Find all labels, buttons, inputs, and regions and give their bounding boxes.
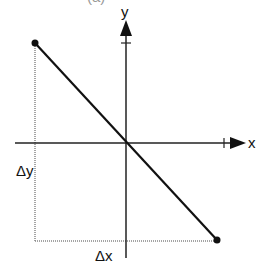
start-point bbox=[32, 40, 39, 47]
x-axis-label: x bbox=[248, 135, 256, 150]
delta-x-label: Δx bbox=[95, 248, 113, 263]
delta-y-label: Δy bbox=[16, 163, 34, 178]
end-point bbox=[214, 237, 221, 244]
diagram-canvas bbox=[0, 0, 262, 273]
y-axis-label: y bbox=[121, 4, 129, 19]
caption-partial: (a) bbox=[87, 0, 105, 4]
x-axis-arrow-icon bbox=[230, 137, 246, 149]
slope-diagram: (a) y x Δy Δx bbox=[0, 0, 262, 273]
y-axis-arrow-icon bbox=[120, 20, 132, 36]
